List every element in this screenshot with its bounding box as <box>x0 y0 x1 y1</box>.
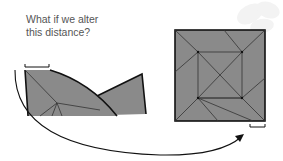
distance-bracket-right <box>250 124 265 127</box>
origami-diagram <box>0 0 283 161</box>
square-crease-pattern <box>175 30 265 121</box>
distance-bracket-left <box>25 64 49 67</box>
folded-shape-left <box>25 70 146 116</box>
